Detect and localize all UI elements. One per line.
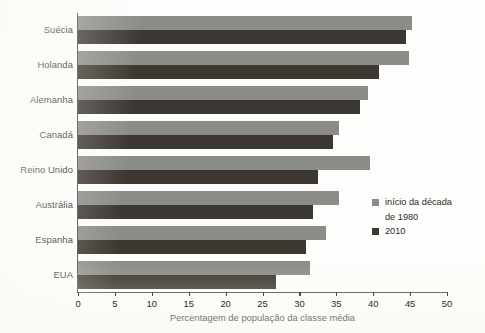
x-axis-tick: [226, 292, 227, 296]
bar: [78, 51, 409, 65]
legend-item-2010: 2010: [372, 226, 484, 238]
x-axis-tick: [115, 292, 116, 296]
x-axis-title: Percentagem de população da classe média: [0, 312, 485, 323]
legend-label-1980s-line1: início da década: [385, 197, 452, 207]
plot-area: [78, 13, 447, 292]
x-axis-tick: [263, 292, 264, 296]
bar: [78, 191, 339, 205]
category-label: EUA: [1, 269, 73, 280]
x-axis-tick-label: 0: [63, 298, 93, 309]
bar: [78, 121, 339, 135]
chart-legend: início da década de 1980 2010: [372, 197, 484, 241]
x-axis-tick-label: 50: [432, 298, 462, 309]
bar: [78, 275, 276, 289]
bar: [78, 65, 379, 79]
x-axis-tick: [373, 292, 374, 296]
x-axis-tick-label: 25: [248, 298, 278, 309]
category-label: Canadá: [1, 129, 73, 140]
x-axis-tick-label: 20: [211, 298, 241, 309]
x-axis-tick: [189, 292, 190, 296]
category-label: Suécia: [1, 24, 73, 35]
category-labels: SuéciaHolandaAlemanhaCanadáReino UnidoAu…: [0, 13, 73, 292]
bar: [78, 135, 333, 149]
category-label: Austrália: [1, 199, 73, 210]
bar: [78, 100, 360, 114]
x-axis-tick-label: 45: [395, 298, 425, 309]
bar: [78, 170, 318, 184]
bar: [78, 205, 313, 219]
x-axis-tick: [447, 292, 448, 296]
legend-swatch-2010: [372, 228, 379, 235]
bar: [78, 86, 368, 100]
x-axis-tick-label: 40: [358, 298, 388, 309]
x-axis-tick: [78, 292, 79, 296]
bar: [78, 156, 370, 170]
bar-group: [78, 51, 447, 79]
category-label: Reino Unido: [1, 164, 73, 175]
x-axis-tick: [336, 292, 337, 296]
bar: [78, 240, 306, 254]
category-label: Espanha: [1, 234, 73, 245]
x-axis-tick: [152, 292, 153, 296]
legend-swatch-1980s: [372, 199, 379, 206]
x-axis-tick-label: 35: [321, 298, 351, 309]
x-axis-tick-label: 10: [137, 298, 167, 309]
bar: [78, 16, 412, 30]
bar: [78, 226, 326, 240]
category-label: Holanda: [1, 59, 73, 70]
bar: [78, 261, 310, 275]
x-axis-tick: [410, 292, 411, 296]
legend-item-1980s: início da década: [372, 197, 484, 209]
legend-label-2010: 2010: [385, 226, 405, 236]
bar: [78, 30, 406, 44]
bar-group: [78, 156, 447, 184]
bar-chart: SuéciaHolandaAlemanhaCanadáReino UnidoAu…: [0, 0, 485, 333]
bar-group: [78, 86, 447, 114]
x-axis-tick: [299, 292, 300, 296]
legend-label-1980s-line2: de 1980: [372, 212, 484, 224]
x-axis-tick-label: 15: [174, 298, 204, 309]
x-axis-tick-label: 30: [284, 298, 314, 309]
x-axis-tick-label: 5: [100, 298, 130, 309]
bar-group: [78, 261, 447, 289]
category-label: Alemanha: [1, 94, 73, 105]
bar-group: [78, 121, 447, 149]
bar-group: [78, 16, 447, 44]
